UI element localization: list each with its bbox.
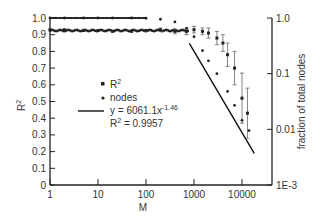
legend-square-icon — [101, 82, 105, 86]
r2-point — [207, 32, 210, 35]
legend-fit-label: y = 6061.1x-1.46 — [110, 104, 178, 116]
nodes-point — [111, 17, 114, 20]
legend: R2nodesy = 6061.1x-1.46R2 = 0.9957 — [78, 78, 178, 129]
y-tick-label: 0.1 — [32, 163, 46, 174]
y-tick-label: 0.3 — [32, 129, 46, 140]
y-right-tick-label: 1E-3 — [276, 180, 298, 191]
r2-point — [233, 67, 236, 70]
r2-point — [63, 28, 66, 31]
y-tick-label: 0.5 — [32, 96, 46, 107]
r2-point — [49, 28, 52, 31]
legend-nodes-label: nodes — [110, 92, 137, 103]
nodes-point — [63, 17, 66, 20]
y-right-tick-label: 1.0 — [276, 13, 290, 24]
fit-line — [189, 43, 254, 153]
nodes-point — [185, 27, 188, 30]
r2-point — [111, 30, 114, 33]
x-tick-label: 1 — [47, 189, 53, 200]
x-tick-label: 10 — [92, 189, 104, 200]
nodes-point — [130, 17, 133, 20]
nodes-point — [248, 129, 251, 132]
y-tick-label: 0.4 — [32, 113, 46, 124]
r2-point — [201, 30, 204, 33]
legend-dot-icon — [101, 96, 104, 99]
r2-point — [173, 30, 176, 33]
r2-point — [221, 42, 224, 45]
r2-point — [97, 29, 100, 32]
y-tick-label: 0.6 — [32, 79, 46, 90]
r2-point — [226, 53, 229, 56]
nodes-point — [173, 21, 176, 24]
y-tick-label: 0.2 — [32, 146, 46, 157]
y-right-tick-label: 0.01 — [276, 124, 296, 135]
r2-point — [215, 37, 218, 40]
x-tick-label: 1000 — [183, 189, 206, 200]
chart: 00.10.20.30.40.50.60.70.80.91.01E-30.010… — [0, 0, 321, 220]
x-tick-label: 100 — [138, 189, 155, 200]
r2-point — [130, 30, 133, 33]
y-axis-label: R2 — [15, 100, 27, 111]
r2-point — [241, 97, 244, 100]
nodes-point — [97, 17, 100, 20]
legend-r2-value: R2 = 0.9957 — [110, 117, 164, 129]
x-axis-label: M — [139, 202, 147, 213]
legend-r2-label: R2 — [110, 78, 121, 90]
nodes-point — [207, 59, 210, 62]
nodes-point — [241, 119, 244, 122]
r2-point — [185, 30, 188, 33]
r2-point — [159, 28, 162, 31]
y-tick-label: 1.0 — [32, 13, 46, 24]
nodes-point — [49, 17, 52, 20]
r2-point — [193, 28, 196, 31]
nodes-point — [233, 104, 236, 107]
y-tick-label: 0.8 — [32, 46, 46, 57]
y-right-axis-label: fraction of total nodes — [296, 54, 307, 150]
nodes-point — [216, 72, 219, 75]
nodes-point — [159, 18, 162, 21]
r2-point — [246, 112, 249, 115]
x-tick-label: 10000 — [228, 189, 256, 200]
nodes-point — [82, 17, 85, 20]
nodes-point — [226, 90, 229, 93]
y-tick-label: 0.7 — [32, 63, 46, 74]
plot-area — [49, 17, 255, 154]
r2-point — [82, 29, 85, 32]
nodes-point — [145, 17, 148, 20]
y-right-tick-label: 0.1 — [276, 68, 290, 79]
nodes-point — [201, 49, 204, 52]
y-tick-label: 0 — [40, 180, 46, 191]
nodes-point — [193, 35, 196, 38]
r2-point — [145, 29, 148, 32]
y-tick-label: 0.9 — [32, 29, 46, 40]
